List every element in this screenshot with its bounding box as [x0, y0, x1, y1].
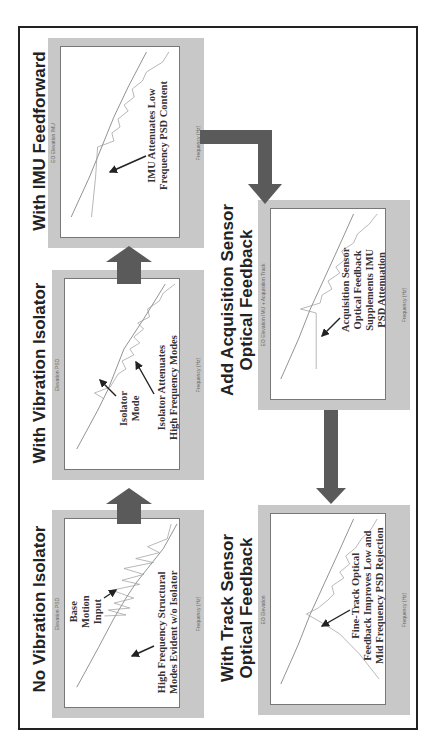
x-axis-label: Frequency (Hz) — [195, 38, 201, 248]
x-axis-label: Frequency (Hz) — [195, 510, 201, 718]
annotation-line: Base — [68, 595, 80, 628]
x-axis-label: Frequency (Hz) — [401, 200, 407, 410]
annotation-isolator-mode: Isolator Mode — [118, 391, 142, 426]
annotation-line: PSD Attenuation — [376, 248, 388, 332]
stage-title-acq-line2: Optical Feedback — [237, 190, 256, 410]
annotation-line: Acquisition Sensor — [340, 248, 352, 332]
stage-title-track-line2: Optical Feedback — [237, 508, 256, 708]
stage-title-track-line1: With Track Sensor — [218, 508, 237, 708]
annotation-line: Fine-Track Optical — [350, 527, 362, 664]
annotation-line: Optical Feedback — [352, 248, 364, 332]
plot-title: EO Elevation IMU + Acquisition Track — [260, 200, 266, 410]
annotation-structural-modes: High Frequency Structural Modes Evident … — [156, 571, 180, 694]
annotation-line: IMU Attenuates Low — [146, 81, 158, 190]
psd-plot-imu-feedforward: EO Elevation IMU Frequency (Hz) — [48, 38, 204, 248]
annotation-line: Supplements IMU — [364, 248, 376, 332]
plot-title: EO Elevation — [260, 505, 266, 715]
annotation-line: High Frequency Modes — [168, 335, 180, 440]
stage-title-acq-line1: Add Acquisition Sensor — [218, 190, 237, 410]
annotation-line: Feedback Improves Low and — [362, 527, 374, 664]
annotation-line: Mode — [130, 391, 142, 426]
annotation-acquisition: Acquisition Sensor Optical Feedback Supp… — [340, 248, 388, 332]
annotation-line: Input — [92, 595, 104, 628]
annotation-line: Isolator Attenuates — [156, 335, 168, 440]
annotation-imu-attenuates: IMU Attenuates Low Frequency PSD Content — [146, 81, 170, 190]
psd-plot-track-feedback: EO Elevation Frequency (Hz) — [258, 505, 410, 715]
x-axis-label: Frequency (Hz) — [195, 270, 201, 480]
stage-title-track: With Track Sensor Optical Feedback — [218, 508, 256, 708]
annotation-base-motion: Base Motion Input — [68, 595, 104, 628]
stage-title-acquisition: Add Acquisition Sensor Optical Feedback — [218, 190, 256, 410]
annotation-line: Mid Frequency PSD Rejection — [374, 527, 386, 664]
stage-title-with-isolator: With Vibration Isolator — [30, 268, 49, 478]
x-axis-label: Frequency (Hz) — [401, 505, 407, 715]
annotation-isolator-attenuates: Isolator Attenuates High Frequency Modes — [156, 335, 180, 440]
annotation-line: Motion — [80, 595, 92, 628]
plot-title: Elevation PSD — [54, 510, 60, 718]
annotation-line: Frequency PSD Content — [158, 81, 170, 190]
psd-plot-with-isolator: Elevation PSD Frequency (Hz) — [52, 270, 204, 480]
stage-title-imu-feedforward: With IMU Feedforward — [30, 46, 49, 236]
diagram-stage: No Vibration Isolator With Vibration Iso… — [0, 0, 439, 756]
stage-title-no-isolator: No Vibration Isolator — [30, 514, 49, 704]
annotation-line: Modes Evident w/o Isolator — [168, 571, 180, 694]
plot-title: EO Elevation IMU — [50, 38, 56, 248]
annotation-line: Isolator — [118, 391, 130, 426]
annotation-line: High Frequency Structural — [156, 571, 168, 694]
plot-title: Elevation PSD — [54, 270, 60, 480]
annotation-fine-track: Fine-Track Optical Feedback Improves Low… — [350, 527, 386, 664]
